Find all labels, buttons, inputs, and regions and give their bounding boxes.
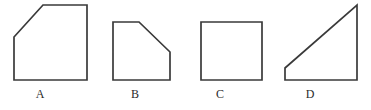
shape-d-outline (285, 5, 357, 80)
shape-b-label: B (120, 88, 150, 100)
shape-b-outline (113, 22, 170, 80)
shape-comparison-figure: A B C D (0, 0, 371, 110)
shape-a-outline (14, 5, 87, 80)
shape-d-label: D (295, 88, 325, 100)
shape-c-label: C (205, 88, 235, 100)
shape-a-label: A (25, 88, 55, 100)
shape-c-outline (201, 22, 262, 80)
